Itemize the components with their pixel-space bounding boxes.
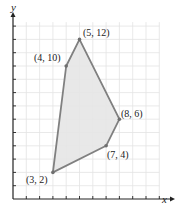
point-label-4-10: (4, 10) bbox=[34, 52, 61, 64]
vertex-point bbox=[104, 144, 108, 148]
x-axis-label: x bbox=[161, 193, 167, 205]
vertex-point bbox=[64, 64, 68, 68]
vertex-point bbox=[51, 171, 55, 175]
y-axis-label: y bbox=[10, 1, 16, 13]
point-label-5-12: (5, 12) bbox=[83, 27, 110, 39]
chart-canvas: x y (5, 12) (4, 10) (8, 6) (7, 4) (3, 2) bbox=[0, 0, 177, 206]
point-label-3-2: (3, 2) bbox=[26, 174, 48, 186]
point-label-7-4: (7, 4) bbox=[107, 149, 129, 161]
vertex-point bbox=[78, 38, 82, 42]
point-label-8-6: (8, 6) bbox=[121, 108, 143, 120]
